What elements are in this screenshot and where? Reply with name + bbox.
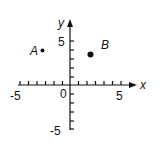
y-tick-label-neg5: -5 xyxy=(50,124,61,138)
point-b xyxy=(88,52,94,58)
x-tick-label-5: 5 xyxy=(116,89,123,103)
point-a-label: A xyxy=(29,44,38,58)
y-tick-label-5: 5 xyxy=(58,35,65,49)
point-a xyxy=(41,49,45,53)
origin-label: 0 xyxy=(60,87,67,101)
x-axis-label: x xyxy=(139,78,147,92)
x-axis-arrow-icon xyxy=(129,82,137,88)
y-axis-arrow-icon xyxy=(67,19,73,27)
coordinate-plane: x y 0 -5 5 5 -5 A B xyxy=(0,0,164,148)
y-axis-label: y xyxy=(57,16,65,30)
point-b-label: B xyxy=(101,38,109,52)
x-tick-label-neg5: -5 xyxy=(10,89,21,103)
